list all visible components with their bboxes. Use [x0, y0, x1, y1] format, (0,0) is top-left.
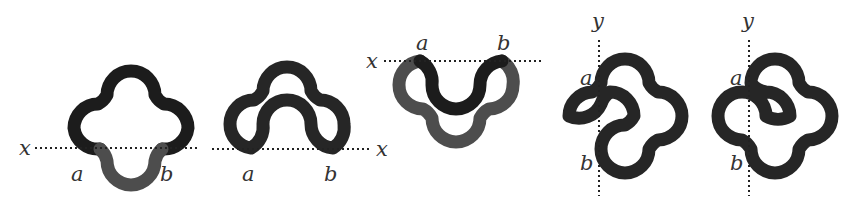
panel-5: y a b — [718, 9, 832, 196]
panel-3: x a b — [366, 31, 544, 142]
panel-4: y a b — [569, 9, 682, 196]
track-lower-segment — [100, 149, 162, 185]
track-outer-segment — [399, 61, 513, 142]
axis-label-x: x — [19, 136, 31, 160]
point-label-b: b — [497, 31, 510, 55]
track-inner-segment — [420, 61, 502, 109]
panel-2: x a b — [212, 67, 388, 186]
point-label-a: a — [730, 66, 743, 90]
panel-1: x a b — [19, 71, 200, 186]
reflection-diagram: x a b x a b x a b y a b y a b — [0, 0, 861, 203]
point-label-a: a — [580, 66, 593, 90]
axis-label-x: x — [366, 49, 378, 73]
point-label-a: a — [242, 162, 255, 186]
point-label-b: b — [160, 162, 173, 186]
point-label-b: b — [580, 151, 593, 175]
axis-label-y: y — [741, 9, 755, 33]
axis-label-x: x — [376, 137, 388, 161]
track-full — [230, 67, 344, 148]
point-label-a: a — [71, 162, 84, 186]
point-label-a: a — [416, 31, 429, 55]
track-upper-segment — [74, 71, 188, 149]
point-label-b: b — [324, 162, 337, 186]
point-label-b: b — [730, 151, 743, 175]
axis-label-y: y — [591, 9, 605, 33]
